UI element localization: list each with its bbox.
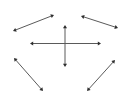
arrows-group [13,14,118,91]
arrow-shaft [82,16,116,27]
arrow-shaft [14,16,52,31]
double-arrow-bottom-right-diagonal [87,60,115,91]
arrowhead-icon [63,25,67,28]
arrowhead-icon [98,42,101,46]
double-arrow-top-right-diagonal [81,15,118,29]
arrow-shaft [15,59,42,90]
arrowhead-icon [30,42,33,46]
double-arrow-top-left-diagonal [13,14,54,31]
double-arrow-center-vertical [63,25,67,67]
arrowhead-icon [63,64,67,67]
arrow-shaft [88,61,114,90]
double-arrow-diagram [0,0,129,109]
double-arrow-bottom-left-diagonal [14,58,43,91]
